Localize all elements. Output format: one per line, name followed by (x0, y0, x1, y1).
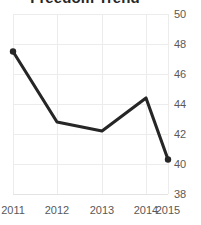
series-markers (10, 48, 171, 162)
chart-container: Freedom Trend 50 48 46 44 42 40 38 2011 … (0, 0, 201, 225)
data-point-marker (165, 156, 171, 162)
series-line-path (13, 52, 168, 160)
data-point-marker (10, 48, 16, 54)
data-series-freedom-trend (0, 0, 201, 225)
plot-area: 50 48 46 44 42 40 38 2011 2012 2013 2014… (0, 0, 201, 225)
